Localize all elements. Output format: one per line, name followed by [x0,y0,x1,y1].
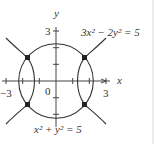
y-axis-label: y [54,8,59,19]
y-tick-3: 3 [45,26,51,37]
circle-equation: x² + y² = 5 [34,124,82,135]
x-tick-neg3: −3 [0,88,12,99]
hyperbola-equation: 3x² − 2y² = 5 [81,27,140,38]
right-border [152,0,154,144]
x-tick-3: 3 [103,88,109,99]
x-axis-label: x [117,75,122,86]
origin-label: 0 [45,86,51,97]
figure: y x 3 −3 3 0 3x² − 2y² = 5 x² + y² = 5 [0,0,154,144]
